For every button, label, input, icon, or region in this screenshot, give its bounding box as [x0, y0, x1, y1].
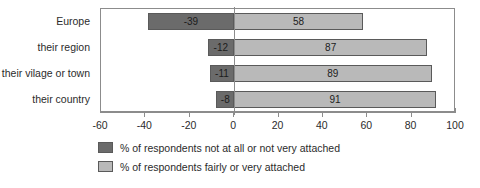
- bar-value-label: 58: [235, 14, 362, 29]
- category-label: their vilage or town: [2, 60, 90, 86]
- x-axis-tick-label: -60: [80, 119, 120, 131]
- x-axis-tick: [144, 112, 145, 117]
- bar-value-label: 91: [235, 92, 435, 107]
- bar-value-label: -11: [211, 66, 233, 81]
- chart-legend: % of respondents not at all or not very …: [98, 139, 428, 177]
- x-axis-tick-label: -20: [169, 119, 209, 131]
- bar-negative: -11: [210, 65, 234, 82]
- legend-item[interactable]: % of respondents not at all or not very …: [98, 139, 428, 156]
- x-axis-tick-label: 0: [213, 119, 253, 131]
- plot-area: -3958-1287-1189-891: [100, 8, 455, 112]
- plot-inner: -3958-1287-1189-891: [101, 9, 454, 111]
- legend-swatch: [98, 142, 113, 153]
- x-axis-tick-label: 100: [435, 119, 475, 131]
- x-axis-tick: [455, 108, 456, 113]
- category-label: Europe: [56, 8, 90, 34]
- bar-value-label: 89: [235, 66, 430, 81]
- x-axis-tick-label: 40: [302, 119, 342, 131]
- x-axis-tick: [278, 112, 279, 117]
- x-axis-tick: [100, 108, 101, 113]
- x-axis-tick: [189, 112, 190, 117]
- legend-item[interactable]: % of respondents fairly or very attached: [98, 158, 428, 175]
- diverging-bar-chart: Europetheir regiontheir vilage or townth…: [0, 0, 480, 188]
- bar-group: -1287: [101, 35, 454, 61]
- bar-negative: -12: [208, 39, 235, 56]
- bar-value-label: -39: [149, 14, 234, 29]
- category-label: their country: [32, 86, 90, 112]
- bar-positive: 91: [234, 91, 436, 108]
- bar-value-label: 87: [235, 40, 426, 55]
- legend-swatch: [98, 161, 113, 172]
- legend-label: % of respondents not at all or not very …: [120, 142, 340, 154]
- x-axis-tick-label: -40: [124, 119, 164, 131]
- bar-group: -3958: [101, 9, 454, 35]
- bar-positive: 89: [234, 65, 431, 82]
- category-label: their region: [37, 34, 90, 60]
- zero-line: [234, 7, 235, 115]
- x-axis: -60-40-20020406080100: [100, 112, 455, 142]
- x-axis-tick-label: 20: [258, 119, 298, 131]
- bar-group: -1189: [101, 61, 454, 87]
- bar-negative: -8: [216, 91, 234, 108]
- x-axis-tick: [322, 112, 323, 117]
- x-axis-tick: [233, 112, 234, 117]
- x-axis-tick-label: 80: [391, 119, 431, 131]
- bar-negative: -39: [148, 13, 235, 30]
- x-axis-tick-label: 60: [346, 119, 386, 131]
- bar-positive: 58: [234, 13, 363, 30]
- bar-positive: 87: [234, 39, 427, 56]
- category-axis-labels: Europetheir regiontheir vilage or townth…: [0, 8, 96, 112]
- bar-value-label: -12: [209, 40, 234, 55]
- bar-value-label: -8: [217, 92, 233, 107]
- x-axis-tick: [366, 112, 367, 117]
- bar-group: -891: [101, 87, 454, 113]
- x-axis-tick: [411, 112, 412, 117]
- legend-label: % of respondents fairly or very attached: [120, 161, 305, 173]
